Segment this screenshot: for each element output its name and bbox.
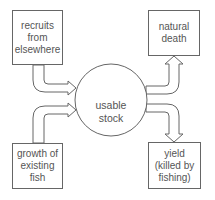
yield-box: yield (killed by fishing) (148, 142, 201, 189)
arrow-stock-to-yield (146, 104, 183, 142)
arrow-recruits-to-stock (33, 65, 76, 95)
recruits-label: recruits from elsewhere (15, 20, 61, 56)
yield-label: yield (killed by fishing) (155, 148, 194, 184)
center-text: usable stock (96, 99, 127, 124)
growth-box: growth of existing fish (12, 143, 63, 189)
recruits-box: recruits from elsewhere (12, 10, 63, 65)
growth-label: growth of existing fish (17, 148, 58, 184)
arrow-growth-to-stock (33, 103, 76, 143)
arrow-stock-to-natural-death (146, 56, 183, 94)
usable-stock-label: usable stock (86, 86, 136, 125)
natural-death-label: natural death (159, 21, 190, 45)
natural-death-box: natural death (148, 10, 200, 56)
